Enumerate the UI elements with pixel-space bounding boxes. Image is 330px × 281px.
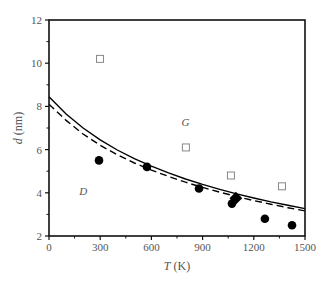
- region-label-g: G: [182, 116, 190, 128]
- filled-circle-marker: [143, 163, 152, 172]
- x-tick-label: 1200: [243, 241, 266, 253]
- open-square-marker: [182, 144, 189, 151]
- x-tick-label: 600: [143, 241, 160, 253]
- filled-circle-marker: [288, 221, 297, 230]
- y-tick-label: 10: [31, 57, 43, 69]
- y-tick-label: 2: [37, 230, 43, 242]
- filled-circle-marker: [195, 184, 204, 193]
- open-square-marker: [227, 172, 234, 179]
- open-square-marker: [97, 55, 104, 62]
- x-tick-label: 1500: [294, 241, 317, 253]
- x-tick-label: 0: [46, 241, 52, 253]
- region-label-d: D: [78, 185, 87, 197]
- x-axis-label: T(K): [164, 259, 190, 273]
- axis-ticks: [45, 20, 305, 240]
- open-square-marker: [278, 183, 285, 190]
- tick-labels: 03006009001200150024681012: [31, 14, 317, 253]
- filled-circle-marker: [95, 156, 104, 165]
- fit-curves: [49, 97, 305, 211]
- x-tick-label: 300: [92, 241, 109, 253]
- x-tick-label: 900: [194, 241, 211, 253]
- chart: 03006009001200150024681012 GD T(K) d(nm): [0, 0, 330, 281]
- y-tick-label: 4: [37, 187, 43, 199]
- y-axis-label: d(nm): [11, 112, 25, 144]
- y-tick-label: 12: [31, 14, 42, 26]
- filled-circle-marker: [261, 214, 270, 223]
- solid-curve: [49, 97, 305, 209]
- y-tick-label: 8: [37, 100, 43, 112]
- y-tick-label: 6: [37, 144, 43, 156]
- dashed-curve: [49, 104, 305, 211]
- region-annotations: GD: [78, 116, 189, 197]
